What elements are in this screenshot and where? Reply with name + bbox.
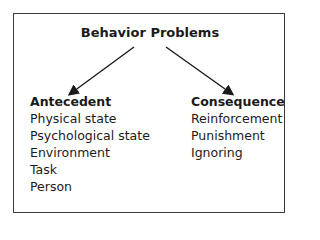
arrow-to-consequence [166,47,232,94]
consequence-item: Reinforcement [191,110,285,127]
antecedent-item: Environment [30,144,150,161]
antecedent-column: Antecedent Physical state Psychological … [30,93,150,195]
arrow-to-antecedent [70,47,134,94]
consequence-heading: Consequence [191,93,285,110]
consequence-column: Consequence Reinforcement Punishment Ign… [191,93,285,161]
antecedent-item: Task [30,161,150,178]
antecedent-item: Physical state [30,110,150,127]
antecedent-item: Psychological state [30,127,150,144]
consequence-item: Ignoring [191,144,285,161]
consequence-item: Punishment [191,127,285,144]
antecedent-item: Person [30,178,150,195]
antecedent-heading: Antecedent [30,93,150,110]
